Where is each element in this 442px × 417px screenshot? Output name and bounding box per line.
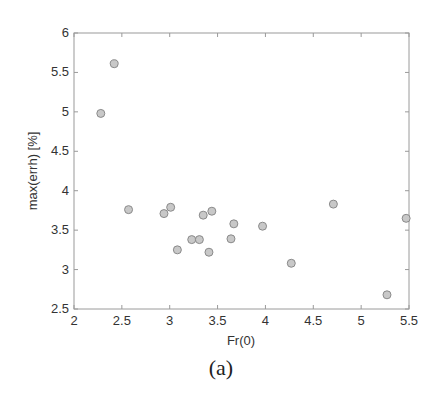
x-tick-label: 2.5 [113,313,131,328]
data-point [287,259,295,267]
data-point [199,211,207,219]
data-point [402,214,410,222]
x-tick-label: 5.5 [400,313,418,328]
data-point [329,200,337,208]
data-point [259,222,267,230]
y-tick-label: 5 [62,104,69,119]
x-tick-label: 4 [262,313,269,328]
axis-ticks: 22.533.544.555.52.533.544.555.56 [51,25,418,328]
x-tick-label: 5 [358,313,365,328]
y-tick-label: 6 [62,25,69,40]
data-point [208,207,216,215]
data-point [188,236,196,244]
data-point [173,246,181,254]
data-point [167,203,175,211]
y-tick-label: 4.5 [51,143,69,158]
scatter-chart: 22.533.544.555.52.533.544.555.56 Fr(0) m… [0,0,442,350]
plot-frame [74,33,409,309]
x-tick-label: 3.5 [209,313,227,328]
y-tick-label: 5.5 [51,64,69,79]
x-tick-label: 3 [166,313,173,328]
data-point [97,109,105,117]
y-tick-label: 2.5 [51,301,69,316]
x-tick-label: 2 [70,313,77,328]
data-point [227,235,235,243]
data-point [383,291,391,299]
data-point [125,206,133,214]
x-axis-label: Fr(0) [227,333,255,348]
figure-caption: (a) [0,355,442,381]
y-tick-label: 3 [62,262,69,277]
data-points [97,60,410,299]
y-tick-label: 3.5 [51,222,69,237]
x-tick-label: 4.5 [304,313,322,328]
data-point [230,220,238,228]
plot-area [74,33,409,309]
y-axis-label: max(errh) [%] [25,132,40,211]
data-point [205,248,213,256]
data-point [195,236,203,244]
data-point [160,210,168,218]
data-point [110,60,118,68]
y-tick-label: 4 [62,183,69,198]
